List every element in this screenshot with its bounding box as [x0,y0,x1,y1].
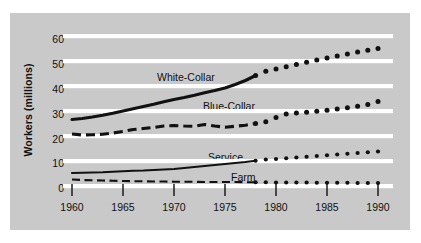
chart-plot-surface [0,0,421,243]
chart-figure: Workers (millions) 60 50 40 30 20 10 0 1… [0,0,421,243]
